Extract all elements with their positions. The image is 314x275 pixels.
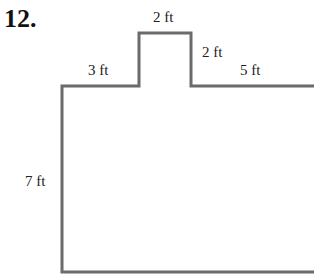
label-tab-width: 2 ft <box>153 9 174 25</box>
label-left-top: 3 ft <box>88 62 109 78</box>
label-right-top: 5 ft <box>240 62 261 78</box>
composite-figure: 2 ft 3 ft 2 ft 5 ft 7 ft <box>0 0 314 275</box>
label-left-side: 7 ft <box>25 173 46 189</box>
label-tab-height: 2 ft <box>202 44 223 60</box>
